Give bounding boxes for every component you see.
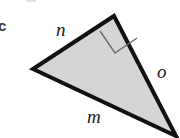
geometry-figure: c n o m [0,0,180,138]
figure-part-label: c [0,18,6,33]
triangle-shape [33,16,176,136]
side-label-m: m [87,107,101,126]
side-label-n: n [56,20,66,39]
side-label-o: o [157,62,167,81]
